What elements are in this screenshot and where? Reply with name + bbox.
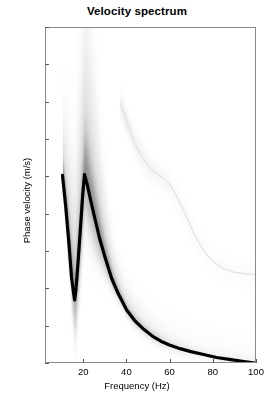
dispersion-curves bbox=[46, 28, 255, 362]
y-tick-mark bbox=[45, 326, 49, 327]
x-axis-label: Frequency (Hz) bbox=[0, 380, 274, 391]
x-tick-label: 40 bbox=[106, 366, 146, 377]
x-tick-label: 80 bbox=[193, 366, 233, 377]
x-tick-label: 100 bbox=[236, 366, 274, 377]
x-tick-label: 60 bbox=[150, 366, 190, 377]
chart-title: Velocity spectrum bbox=[0, 5, 274, 17]
y-tick-mark bbox=[45, 64, 49, 65]
x-tick-mark bbox=[170, 359, 171, 363]
secondary-mode-curve bbox=[120, 104, 255, 274]
y-tick-mark bbox=[45, 288, 49, 289]
x-tick-mark bbox=[213, 359, 214, 363]
y-tick-mark bbox=[45, 139, 49, 140]
y-tick-mark bbox=[45, 214, 49, 215]
y-tick-mark bbox=[45, 176, 49, 177]
y-tick-mark bbox=[45, 27, 49, 28]
picked-dispersion-curve bbox=[62, 175, 255, 362]
plot-area bbox=[45, 27, 256, 363]
y-tick-mark bbox=[45, 363, 49, 364]
y-axis-label: Phase velocity (m/s) bbox=[21, 111, 32, 291]
x-tick-mark bbox=[126, 359, 127, 363]
x-tick-label: 20 bbox=[63, 366, 103, 377]
y-tick-mark bbox=[45, 251, 49, 252]
y-tick-mark bbox=[45, 102, 49, 103]
velocity-spectrum-figure: Velocity spectrum 2003004005006007008009… bbox=[0, 0, 274, 402]
x-tick-mark bbox=[256, 359, 257, 363]
x-tick-mark bbox=[83, 359, 84, 363]
